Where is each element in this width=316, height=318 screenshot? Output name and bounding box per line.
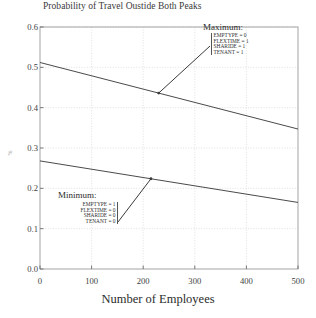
annotation-maximum-rows: EMPTYPE = 0FLEXTIME = 1SHARIDE = 1TENANT…	[211, 33, 249, 55]
chart-container: Probability of Travel Oustide Both Peaks…	[0, 0, 316, 318]
annotation-leader-maximum	[159, 46, 210, 93]
annotation-leader-minimum	[118, 179, 151, 222]
annotation-minimum-heading: Minimum:	[58, 190, 97, 200]
annotation-maximum-heading: Maximum:	[203, 22, 243, 32]
annotation-minimum-rows: EMPTYPE = 1FLEXTIME = 0SHARIDE = 0TENANT…	[62, 202, 118, 224]
annotation-anchor-maximum	[157, 92, 160, 95]
annotation-minimum-row: TENANT = 0	[62, 219, 116, 225]
plot-area	[0, 0, 316, 318]
series-line-maximum	[40, 62, 298, 129]
annotation-maximum-row: TENANT = 1	[214, 50, 249, 56]
annotation-anchor-minimum	[150, 177, 153, 180]
annotation-minimum: EMPTYPE = 1FLEXTIME = 0SHARIDE = 0TENANT…	[62, 202, 118, 224]
annotation-maximum: EMPTYPE = 0FLEXTIME = 1SHARIDE = 1TENANT…	[211, 33, 249, 55]
